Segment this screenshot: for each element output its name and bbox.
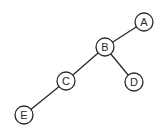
node-d-label: D [130, 76, 138, 88]
node-c-label: C [62, 75, 70, 87]
node-d: D [125, 73, 143, 91]
tree-diagram: A B C D E [0, 0, 164, 131]
node-a-label: A [140, 16, 148, 28]
node-a: A [135, 13, 153, 31]
node-b: B [96, 38, 114, 56]
node-b-label: B [101, 41, 108, 53]
node-e: E [15, 106, 33, 124]
node-e-label: E [20, 109, 27, 121]
node-c: C [57, 72, 75, 90]
